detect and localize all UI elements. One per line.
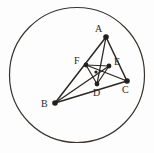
vertex-dot-D [95, 82, 100, 87]
vertex-label-B: B [41, 99, 48, 109]
vertex-label-C: C [122, 85, 129, 95]
geometry-figure: A B C D E F [0, 0, 154, 153]
side-BC [55, 81, 127, 103]
vertex-dot-layer [52, 34, 130, 106]
vertex-dot-E [107, 64, 112, 69]
vertex-dot-A [103, 34, 109, 40]
geometry-canvas [0, 0, 154, 153]
cevian-BE [55, 66, 109, 103]
vertex-dot-G [94, 70, 97, 73]
vertex-label-F: F [74, 56, 80, 66]
vertex-dot-B [52, 100, 58, 106]
vertex-dot-F [84, 63, 89, 68]
segment-layer [55, 37, 127, 103]
vertex-label-D: D [93, 88, 100, 98]
vertex-label-E: E [114, 57, 120, 67]
vertex-dot-C [124, 78, 130, 84]
vertex-label-A: A [95, 24, 102, 34]
